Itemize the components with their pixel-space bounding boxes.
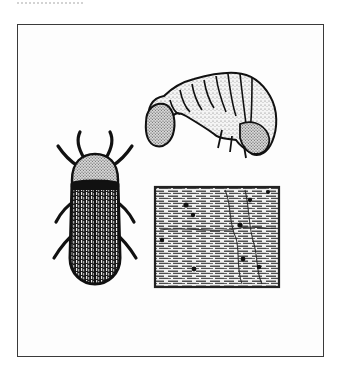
beetle-illustration <box>54 132 136 284</box>
larva-illustration <box>146 73 276 158</box>
damaged-wood-illustration <box>155 187 279 287</box>
illustration-canvas <box>0 0 345 380</box>
